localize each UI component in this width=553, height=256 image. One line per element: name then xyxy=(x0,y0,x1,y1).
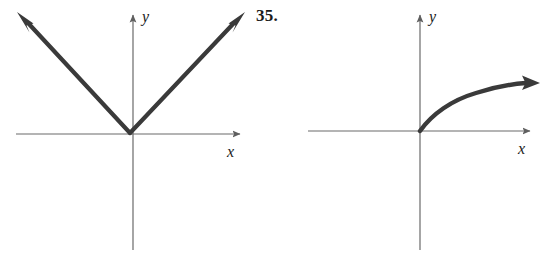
right-arm-arrowhead xyxy=(229,12,246,33)
absolute-value-svg: x y xyxy=(0,0,280,256)
curve-right-arm xyxy=(130,24,233,133)
x-axis-label: x xyxy=(517,140,525,157)
y-axis-label: y xyxy=(140,8,150,26)
y-axis-label: y xyxy=(427,8,437,26)
curve-left-arm xyxy=(29,24,130,133)
figure-page: x y x y 35. xyxy=(0,0,553,256)
exercise-number: 35. xyxy=(256,6,278,26)
figure-absolute-value: x y xyxy=(0,0,280,256)
left-arm-arrowhead xyxy=(17,12,34,33)
curve-square-root xyxy=(420,83,526,131)
x-axis-label: x xyxy=(226,143,234,160)
figure-square-root: x y xyxy=(280,0,553,256)
square-root-svg: x y xyxy=(280,0,553,256)
